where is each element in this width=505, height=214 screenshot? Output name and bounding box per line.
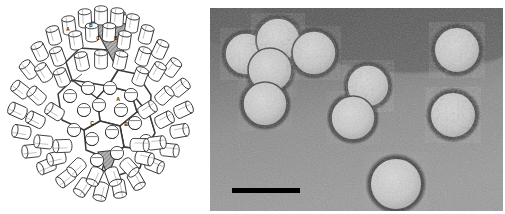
facet-label-b: B — [124, 121, 128, 127]
panel-capsid-schematic: A B C — [0, 0, 205, 214]
panel-electron-micrograph — [210, 8, 503, 211]
electron-micrograph-image — [210, 8, 503, 211]
facet-label-a: A — [116, 96, 120, 102]
figure-container: A B C — [0, 0, 505, 214]
film-grain-overlay — [210, 8, 503, 211]
scale-bar — [232, 188, 300, 193]
capsid-model-drawing: A B C — [0, 0, 205, 214]
facet-label-c: C — [90, 120, 94, 126]
